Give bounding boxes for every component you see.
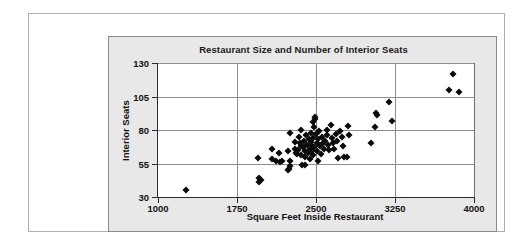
scatter-point [183, 187, 190, 194]
scatter-point [330, 145, 337, 152]
chart-figure: Restaurant Size and Number of Interior S… [108, 36, 497, 232]
plot-area: 30558010513010001750250032504000 [157, 63, 474, 198]
gridline-vertical [395, 63, 396, 197]
y-axis-tick [152, 130, 158, 131]
scatter-point [367, 140, 374, 147]
y-axis-tick [152, 63, 158, 64]
scatter-point [445, 86, 452, 93]
y-axis-title: Interior Seats [118, 85, 132, 177]
x-axis-tick-label: 1000 [147, 203, 168, 214]
page-frame: Restaurant Size and Number of Interior S… [28, 13, 505, 232]
gridline-vertical [237, 63, 238, 197]
scatter-point [276, 149, 283, 156]
scatter-point [268, 145, 275, 152]
scatter-point [373, 112, 380, 119]
scatter-point [284, 148, 291, 155]
y-axis-tick-label: 130 [133, 58, 149, 69]
x-axis-tick-label: 1750 [226, 203, 247, 214]
x-axis-tick-label: 4000 [463, 203, 484, 214]
y-axis-tick-label: 30 [138, 192, 149, 203]
x-axis-tick-label: 3250 [384, 203, 405, 214]
scatter-point [345, 132, 352, 139]
scatter-point [449, 70, 456, 77]
chart-title: Restaurant Size and Number of Interior S… [109, 44, 498, 55]
scatter-point [344, 122, 351, 129]
scatter-point [340, 143, 347, 150]
scatter-point [456, 89, 463, 96]
x-axis-tick-label: 2500 [305, 203, 326, 214]
plot-border-right [474, 63, 475, 197]
scatter-point [255, 155, 262, 162]
y-axis-tick [152, 164, 158, 165]
y-axis-tick-label: 105 [133, 91, 149, 102]
y-axis-tick [152, 97, 158, 98]
scatter-point [385, 98, 392, 105]
y-axis-tick-label: 80 [138, 125, 149, 136]
y-axis-tick-label: 55 [138, 158, 149, 169]
